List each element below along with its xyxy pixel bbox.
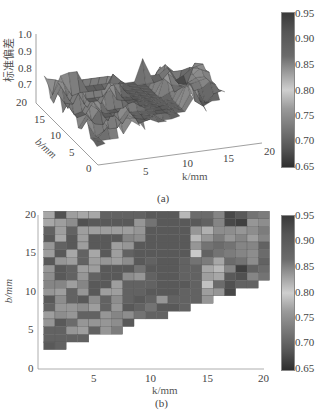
heatmap-cell — [157, 304, 168, 312]
heatmap-cell — [89, 250, 100, 258]
heatmap-cell — [213, 288, 224, 296]
heatmap-cell — [202, 250, 213, 258]
heatmap-cell — [89, 211, 100, 219]
heatmap-cell — [55, 334, 66, 342]
heatmap-cell — [157, 250, 168, 258]
heatmap-cell — [100, 219, 111, 227]
heatmap-cell — [191, 257, 202, 265]
heatmap-cell — [111, 250, 122, 258]
heatmap-cell — [191, 280, 202, 288]
heatmap-cell — [123, 296, 134, 304]
heatmap-cell — [66, 296, 77, 304]
b-tick: 0 — [86, 162, 92, 174]
heatmap-cell — [44, 334, 55, 342]
heatmap-cell — [66, 219, 77, 227]
heatmap-cell — [89, 219, 100, 227]
heatmap-cell — [202, 273, 213, 281]
heatmap-cell — [123, 288, 134, 296]
heatmap-cell — [134, 288, 145, 296]
colorbar — [281, 215, 295, 371]
heatmap-cell — [236, 273, 247, 281]
k-tick: 20 — [264, 145, 275, 157]
heatmap-cell — [78, 242, 89, 250]
heatmap-cell — [66, 327, 77, 335]
heatmap-cell — [78, 304, 89, 312]
heatmap-cell — [168, 250, 179, 258]
colorbar-tick: 0.75 — [295, 311, 314, 323]
heatmap-cell — [213, 234, 224, 242]
heatmap-cell — [157, 257, 168, 265]
heatmap-cell — [123, 304, 134, 312]
heatmap-cell — [111, 273, 122, 281]
heatmap-cell — [213, 280, 224, 288]
heatmap-cell — [123, 319, 134, 327]
heatmap-cell — [100, 211, 111, 219]
heatmap-cell — [258, 242, 269, 250]
heatmap-cell — [66, 280, 77, 288]
heatmap-cell — [44, 211, 55, 219]
heatmap-cell — [224, 265, 235, 273]
heatmap-cell — [145, 227, 156, 235]
heatmap-cell — [179, 280, 190, 288]
surface-plot — [0, 0, 315, 205]
heatmap-cell — [191, 273, 202, 281]
heatmap-cell — [89, 227, 100, 235]
heatmap-cell — [145, 219, 156, 227]
heatmap-cell — [168, 211, 179, 219]
colorbar-tick: 0.70 — [295, 134, 314, 146]
heatmap-cell — [78, 311, 89, 319]
heatmap-cell — [236, 242, 247, 250]
heatmap-cell — [55, 234, 66, 242]
heatmap-cell — [258, 265, 269, 273]
heatmap-cell — [78, 334, 89, 342]
heatmap-cell — [213, 219, 224, 227]
heatmap-cell — [191, 250, 202, 258]
heatmap-cell — [145, 311, 156, 319]
heatmap-cell — [258, 273, 269, 281]
heatmap-cell — [213, 227, 224, 235]
heatmap-cell — [258, 211, 269, 219]
heatmap-cell — [157, 280, 168, 288]
heatmap-cell — [202, 211, 213, 219]
heatmap-cell — [111, 311, 122, 319]
colorbar — [281, 12, 295, 168]
heatmap-cell — [179, 234, 190, 242]
heatmap-cell — [66, 265, 77, 273]
y-tick: 5 — [28, 323, 34, 335]
heatmap-cell — [123, 211, 134, 219]
heatmap-cell — [247, 265, 258, 273]
z-tick: 1.0 — [18, 28, 32, 40]
heatmap-cell — [44, 288, 55, 296]
heatmap-cell — [55, 219, 66, 227]
heatmap-cell — [191, 296, 202, 304]
colorbar-tick: 0.80 — [295, 286, 314, 298]
heatmap-cell — [123, 242, 134, 250]
heatmap-cell — [78, 327, 89, 335]
colorbar-tick: 0.90 — [295, 32, 314, 44]
colorbar-tick: 0.65 — [295, 362, 314, 374]
heatmap-cell — [179, 304, 190, 312]
heatmap-cell — [134, 219, 145, 227]
heatmap-cell — [247, 257, 258, 265]
heatmap-cell — [55, 311, 66, 319]
heatmap-cell — [123, 257, 134, 265]
heatmap-cell — [123, 219, 134, 227]
heatmap-cell — [157, 211, 168, 219]
heatmap-cell — [100, 311, 111, 319]
heatmap-cell — [247, 211, 258, 219]
heatmap-cell — [89, 257, 100, 265]
heatmap-cell — [55, 342, 66, 350]
heatmap-cell — [213, 242, 224, 250]
heatmap-cell — [134, 280, 145, 288]
z-axis-label: 标准偏差 — [0, 38, 16, 82]
heatmap-cell — [179, 242, 190, 250]
heatmap-cell — [157, 242, 168, 250]
heatmap-cell — [78, 296, 89, 304]
y-tick: 15 — [25, 246, 36, 258]
heatmap-cell — [44, 327, 55, 335]
heatmap-cell — [157, 311, 168, 319]
k-axis-label: k/mm — [182, 170, 208, 182]
heatmap-cell — [111, 304, 122, 312]
heatmap-cell — [89, 296, 100, 304]
heatmap-cell — [66, 304, 77, 312]
